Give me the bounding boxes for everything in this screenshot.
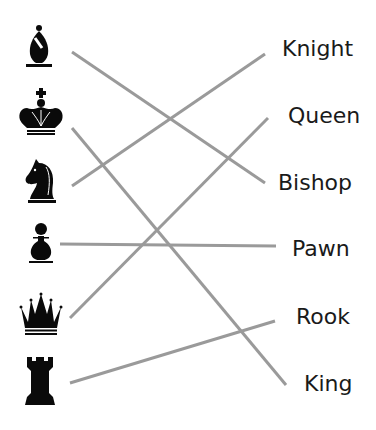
label-bishop[interactable]: Bishop xyxy=(278,172,352,194)
label-knight[interactable]: Knight xyxy=(282,38,353,60)
line-queen-to-queen[interactable] xyxy=(70,118,268,318)
bishop-icon[interactable] xyxy=(22,24,56,70)
line-king-to-king[interactable] xyxy=(72,128,286,385)
line-rook-to-rook[interactable] xyxy=(70,321,275,383)
queen-icon[interactable] xyxy=(19,292,63,336)
label-queen[interactable]: Queen xyxy=(288,105,360,127)
line-pawn-to-pawn[interactable] xyxy=(60,244,276,246)
rook-icon[interactable] xyxy=(23,355,57,407)
label-pawn[interactable]: Pawn xyxy=(292,238,350,260)
label-rook[interactable]: Rook xyxy=(296,306,350,328)
label-king[interactable]: King xyxy=(304,373,352,395)
line-knight-to-knight[interactable] xyxy=(72,54,265,186)
pawn-icon[interactable] xyxy=(27,222,55,264)
knight-icon[interactable] xyxy=(22,157,60,205)
king-icon[interactable] xyxy=(18,88,64,136)
